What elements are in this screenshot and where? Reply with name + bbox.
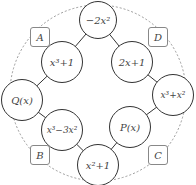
node-right: x³+x² bbox=[152, 74, 194, 116]
node-upper-left: x³+1 bbox=[41, 41, 83, 83]
node-label: P(x) bbox=[120, 122, 140, 133]
node-label: x²+1 bbox=[86, 160, 110, 171]
box-label: D bbox=[154, 32, 162, 43]
node-label: −2x² bbox=[86, 15, 110, 26]
node-label: Q(x) bbox=[11, 95, 33, 106]
node-top: −2x² bbox=[79, 1, 117, 39]
box-A: A bbox=[30, 27, 50, 47]
node-label: x³+1 bbox=[50, 57, 74, 68]
box-C: C bbox=[148, 145, 168, 165]
box-D: D bbox=[148, 27, 168, 47]
node-label: x³+x² bbox=[161, 90, 186, 100]
node-upper-right: 2x+1 bbox=[111, 41, 153, 83]
node-lower-right: P(x) bbox=[109, 106, 151, 148]
box-label: B bbox=[36, 150, 43, 161]
node-label: 2x+1 bbox=[119, 57, 146, 68]
box-B: B bbox=[30, 145, 50, 165]
node-label: x³−3x² bbox=[47, 125, 78, 135]
node-bottom: x²+1 bbox=[77, 144, 119, 185]
box-label: A bbox=[36, 32, 43, 43]
node-left: Q(x) bbox=[1, 79, 43, 121]
box-label: C bbox=[154, 150, 162, 161]
